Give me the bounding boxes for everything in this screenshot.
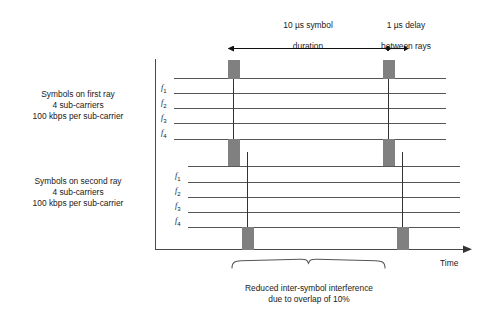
symbol-block-ray1-start-top	[228, 60, 240, 79]
time-axis-label: Time	[440, 258, 488, 268]
symbol-block-ray2-end-bottom	[397, 227, 409, 250]
symbol-block-ray2-start-bottom	[242, 227, 254, 250]
second-ray-line-4	[188, 227, 460, 228]
second-ray-line-0	[188, 166, 460, 167]
second-ray-description-line1: Symbols on second ray	[8, 176, 148, 187]
ray-delay-line1: 1 µs delay	[358, 20, 454, 31]
symbol-block-ray1-start-bottom	[228, 139, 240, 166]
symbol-block-ray1-end-bottom	[383, 139, 395, 166]
f-index: 2	[163, 103, 166, 109]
first-ray-subcarrier-label-3: f3	[161, 113, 167, 124]
first-ray-description-line3: 100 kbps per sub-carrier	[8, 111, 148, 122]
second-ray-subcarrier-label-1: f1	[175, 171, 181, 182]
f-index: 1	[163, 88, 166, 94]
f-index: 3	[177, 206, 180, 212]
first-ray-description-line2: 4 sub-carriers	[8, 100, 148, 111]
second-ray-subcarrier-label-3: f3	[175, 201, 181, 212]
symbol-duration-line1: 10 µs symbol	[253, 20, 363, 31]
f-index: 2	[177, 191, 180, 197]
first-ray-line-3	[174, 123, 446, 124]
symbol-duration-line2: duration	[253, 41, 363, 52]
f-index: 4	[163, 133, 166, 139]
overlap-caption: Reduced inter-symbol interference due to…	[218, 283, 400, 305]
first-ray-line-4	[174, 139, 446, 140]
f-index: 3	[163, 118, 166, 124]
first-ray-description: Symbols on first ray 4 sub-carriers 100 …	[8, 89, 148, 122]
symbol-duration-annotation: 10 µs symbol duration	[253, 9, 363, 62]
vertical-axis	[155, 59, 156, 250]
first-ray-subcarrier-label-1: f1	[161, 83, 167, 94]
symbol-block-ray1-end-top	[383, 60, 395, 79]
second-ray-line-1	[188, 182, 460, 183]
second-ray-symbol-boundary-right	[402, 152, 403, 237]
second-ray-description-line3: 100 kbps per sub-carrier	[8, 198, 148, 209]
first-ray-subcarrier-label-2: f2	[161, 98, 167, 109]
first-ray-line-2	[174, 108, 446, 109]
overlap-caption-line2: due to overlap of 10%	[218, 294, 400, 305]
first-ray-line-0	[174, 78, 446, 79]
first-ray-description-line1: Symbols on first ray	[8, 89, 148, 100]
time-axis-arrowhead	[463, 244, 475, 256]
overlap-brace	[232, 259, 385, 268]
second-ray-subcarrier-label-4: f4	[175, 216, 181, 227]
second-ray-description: Symbols on second ray 4 sub-carriers 100…	[8, 176, 148, 209]
first-ray-line-1	[174, 93, 446, 94]
second-ray-line-2	[188, 197, 460, 198]
ofdm-symbol-timing-diagram: 10 µs symbol duration 1 µs delay between…	[0, 0, 493, 323]
ray-delay-line2: between rays	[358, 41, 454, 52]
second-ray-description-line2: 4 sub-carriers	[8, 187, 148, 198]
overlap-caption-line1: Reduced inter-symbol interference	[218, 283, 400, 294]
f-index: 4	[177, 221, 180, 227]
ray-delay-annotation: 1 µs delay between rays	[358, 9, 454, 62]
second-ray-subcarrier-label-2: f2	[175, 186, 181, 197]
time-axis	[155, 249, 467, 250]
second-ray-line-3	[188, 212, 460, 213]
first-ray-subcarrier-label-4: f4	[161, 128, 167, 139]
f-index: 1	[177, 176, 180, 182]
second-ray-symbol-boundary-left	[247, 152, 248, 237]
